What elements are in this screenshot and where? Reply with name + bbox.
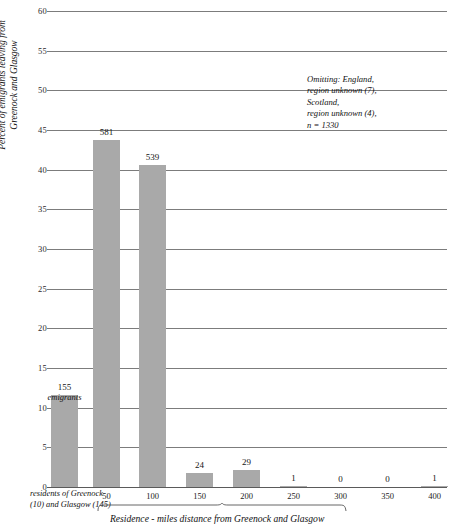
bar-value-label-residents of Greenock and Glasgow: 155: [43, 382, 86, 392]
y-tick-label-20: 20: [7, 323, 47, 333]
y-tick-label-40: 40: [7, 165, 47, 175]
bar-value-label-100: 539: [131, 152, 174, 162]
annotation-line-2: region unknown (7),: [307, 85, 447, 96]
bar-sublabel-residents of Greenock and Glasgow: emigrants: [37, 392, 92, 402]
y-tick-label-35: 35: [7, 204, 47, 214]
annotation-line-4: region unknown (4),: [307, 108, 447, 119]
bar-value-label-150: 24: [178, 460, 221, 470]
x-tick-label-250: 250: [274, 491, 314, 501]
x-tick-label-100: 100: [133, 491, 173, 501]
y-tick-label-5: 5: [7, 442, 47, 452]
bar-value-label-50: 581: [85, 127, 128, 137]
y-tick-label-55: 55: [7, 46, 47, 56]
annotation-line-3: Scotland,: [307, 97, 447, 108]
annotation-line-1: Omitting: England,: [307, 74, 447, 85]
y-tick-label-45: 45: [7, 125, 47, 135]
bar-100: [139, 165, 166, 487]
bar-value-label-350: 0: [366, 474, 409, 484]
axis-brace-icon: [97, 503, 347, 512]
gridline-60: [47, 11, 447, 12]
bar-150: [186, 473, 213, 487]
bar-value-label-200: 29: [225, 457, 268, 467]
gridline-55: [47, 51, 447, 52]
annotation-line-5: n = 1330: [307, 120, 447, 131]
y-tick-label-30: 30: [7, 244, 47, 254]
bar-50: [93, 140, 120, 487]
gridline-0: [47, 487, 447, 488]
bar-value-label-250: 1: [272, 473, 315, 483]
y-tick-label-60: 60: [7, 6, 47, 16]
y-tick-label-15: 15: [7, 363, 47, 373]
x-axis-title: Residence - miles distance from Greenock…: [110, 513, 453, 524]
x-tick-label-150: 150: [180, 491, 220, 501]
bar-value-label-400: 1: [413, 473, 453, 483]
bar-400: [421, 486, 448, 487]
y-tick-label-50: 50: [7, 85, 47, 95]
y-tick-label-10: 10: [7, 403, 47, 413]
y-tick-label-25: 25: [7, 284, 47, 294]
x-tick-label-200: 200: [227, 491, 267, 501]
x-tick-label-400: 400: [415, 491, 453, 501]
bar-200: [233, 470, 260, 487]
x-tick-label-300: 300: [321, 491, 361, 501]
bar-residents of Greenock and Glasgow: [51, 395, 78, 487]
bar-value-label-300: 0: [319, 474, 362, 484]
bar-250: [280, 486, 307, 487]
x-tick-label-350: 350: [368, 491, 408, 501]
emigrant-distance-bar-chart: Percent of emigrants leaving from Greeno…: [0, 0, 453, 526]
omitting-annotation: Omitting: England, region unknown (7), S…: [307, 74, 447, 131]
